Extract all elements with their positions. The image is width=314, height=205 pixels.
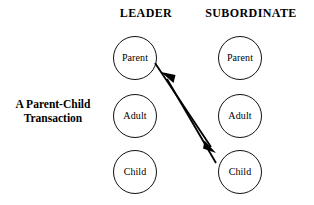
ego-state-leader-child: Child <box>113 150 157 194</box>
ego-state-leader-parent: Parent <box>113 36 157 80</box>
column-header-subordinate: SUBORDINATE <box>199 7 303 19</box>
ego-state-subordinate-child: Child <box>218 150 262 194</box>
column-header-leader: LEADER <box>113 7 179 19</box>
diagram-caption-line-2: Transaction <box>4 111 102 125</box>
diagram-caption-line-1: A Parent-Child <box>4 97 102 111</box>
parent-child-transaction-diagram: LEADER SUBORDINATE A Parent-Child Transa… <box>0 0 314 205</box>
ego-state-label: Adult <box>228 111 251 121</box>
ego-state-label: Child <box>229 167 252 177</box>
ego-state-label: Adult <box>123 111 146 121</box>
ego-state-leader-adult: Adult <box>113 94 157 138</box>
transaction-arrow-stimulus-icon <box>155 63 216 153</box>
ego-state-label: Parent <box>122 53 148 63</box>
transaction-arrow-response-icon <box>161 72 216 163</box>
diagram-caption: A Parent-Child Transaction <box>4 97 102 125</box>
ego-state-subordinate-adult: Adult <box>218 94 262 138</box>
ego-state-label: Child <box>124 167 147 177</box>
ego-state-subordinate-parent: Parent <box>218 36 262 80</box>
ego-state-label: Parent <box>227 53 253 63</box>
